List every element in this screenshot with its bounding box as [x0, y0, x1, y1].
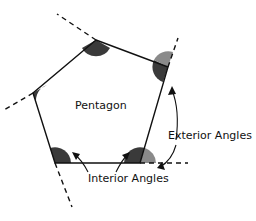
pentagon-angles-diagram: Pentagon Exterior Angles Interior Angles: [0, 0, 256, 221]
exterior-angles-label: Exterior Angles: [168, 130, 252, 141]
pentagon-label: Pentagon: [75, 100, 127, 111]
diagram-canvas: [0, 0, 256, 221]
interior-angles-label: Interior Angles: [88, 173, 169, 184]
